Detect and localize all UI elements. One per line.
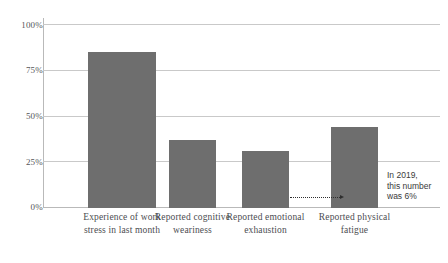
x-label-line: physical — [357, 212, 390, 222]
y-tick-label-75: 75% — [5, 65, 43, 75]
bars-layer — [43, 18, 440, 208]
annotation-arrow-icon — [340, 195, 344, 199]
x-label-line: Experience of — [83, 212, 138, 222]
y-tick-label-50: 50% — [5, 111, 43, 121]
bar-experience-of-work-stress[interactable] — [88, 52, 156, 208]
annotation-line-1: In 2019, — [387, 170, 431, 181]
x-label-reported-physical-fatigue: Reported physical fatigue — [312, 211, 397, 236]
x-label-reported-emotional-exhaustion: Reported emotional exhaustion — [223, 211, 308, 236]
bar-chart: 100% 75% 50% 25% 0% In 2019, this number… — [0, 0, 448, 263]
annotation-text: In 2019, this number was 6% — [387, 170, 431, 202]
y-tick-label-100: 100% — [5, 20, 43, 30]
x-label-line: fatigue — [341, 225, 368, 235]
x-label-line: emotional — [265, 212, 304, 222]
annotation-line-2: this number — [387, 181, 431, 192]
bar-reported-emotional-exhaustion[interactable] — [242, 151, 289, 208]
annotation-dotted-line — [290, 197, 340, 198]
y-axis-ticks: 100% 75% 50% 25% 0% — [0, 0, 43, 263]
bar-reported-physical-fatigue[interactable] — [331, 127, 378, 208]
y-tick-label-25: 25% — [5, 157, 43, 167]
x-label-line: Reported — [227, 212, 263, 222]
annotation-line-3: was 6% — [387, 191, 431, 202]
x-label-line: Reported — [319, 212, 355, 222]
x-label-line: weariness — [173, 225, 212, 235]
bar-reported-cognitive-weariness[interactable] — [169, 140, 216, 208]
y-tick-label-0: 0% — [5, 202, 43, 212]
x-label-line: Reported — [155, 212, 191, 222]
x-label-line: exhaustion — [244, 225, 287, 235]
x-axis-labels: Experience of work stress in last month … — [43, 211, 440, 261]
